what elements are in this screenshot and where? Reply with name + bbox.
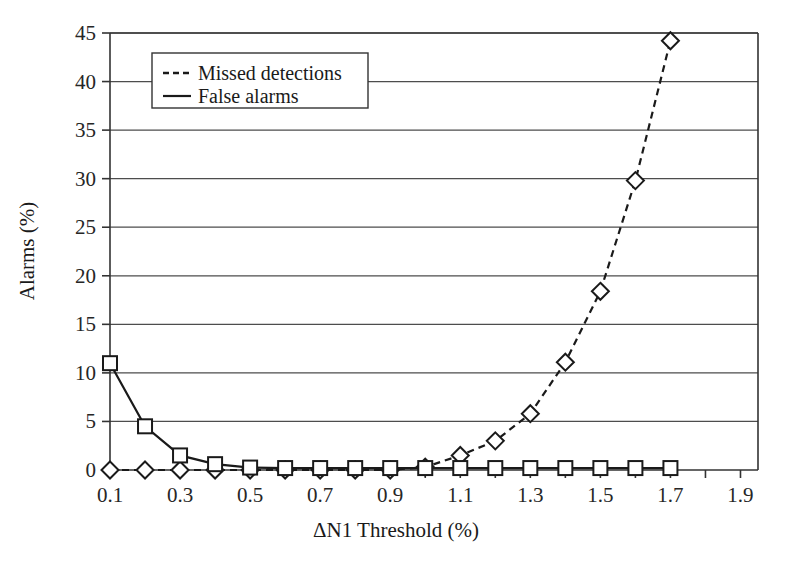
data-point-marker — [418, 461, 432, 475]
data-point-marker — [173, 448, 187, 462]
x-tick-label: 0.3 — [167, 483, 193, 507]
data-point-marker — [348, 461, 362, 475]
y-axis-title: Alarms (%) — [15, 202, 39, 301]
data-point-marker — [243, 461, 257, 475]
data-point-marker — [593, 461, 607, 475]
data-point-marker — [313, 461, 327, 475]
data-point-marker — [138, 419, 152, 433]
x-tick-label: 1.7 — [657, 483, 683, 507]
y-tick-label: 25 — [75, 215, 96, 239]
data-point-marker — [383, 461, 397, 475]
chart-figure: 0.10.30.50.70.91.11.31.51.71.9 051015202… — [0, 0, 793, 564]
data-point-marker — [523, 461, 537, 475]
x-axis-title: ΔN1 Threshold (%) — [313, 518, 479, 542]
y-tick-label: 40 — [75, 70, 96, 94]
alarms-vs-threshold-line-chart: 0.10.30.50.70.91.11.31.51.71.9 051015202… — [0, 0, 793, 564]
legend-label-false-alarms: False alarms — [198, 85, 299, 107]
x-tick-label: 1.1 — [447, 483, 473, 507]
legend-label-missed-detections: Missed detections — [198, 62, 342, 84]
x-tick-label: 0.5 — [237, 483, 263, 507]
y-tick-label: 15 — [75, 312, 96, 336]
x-tick-label: 1.9 — [727, 483, 753, 507]
y-tick-label: 20 — [75, 264, 96, 288]
y-tick-label: 30 — [75, 167, 96, 191]
x-tick-label: 0.1 — [97, 483, 123, 507]
data-point-marker — [278, 461, 292, 475]
y-tick-label: 45 — [75, 21, 96, 45]
data-point-marker — [488, 461, 502, 475]
data-point-marker — [208, 457, 222, 471]
data-point-marker — [628, 461, 642, 475]
x-tick-label: 0.9 — [377, 483, 403, 507]
chart-background — [0, 0, 793, 564]
x-tick-label: 1.5 — [587, 483, 613, 507]
x-tick-label: 1.3 — [517, 483, 543, 507]
y-tick-label: 5 — [86, 409, 97, 433]
y-tick-label: 0 — [86, 458, 97, 482]
data-point-marker — [103, 356, 117, 370]
x-tick-label: 0.7 — [307, 483, 333, 507]
y-tick-label: 35 — [75, 118, 96, 142]
legend: Missed detections False alarms — [152, 53, 368, 108]
data-point-marker — [453, 461, 467, 475]
y-tick-label: 10 — [75, 361, 96, 385]
data-point-marker — [558, 461, 572, 475]
data-point-marker — [663, 461, 677, 475]
